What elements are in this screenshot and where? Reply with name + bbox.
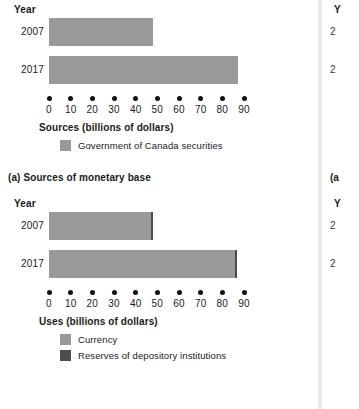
bar-segment-2007-a-0 [49, 18, 153, 46]
bar-2017-a [49, 56, 238, 84]
x-axis-tick-dot-b-80 [220, 290, 225, 295]
legend-label-b-1: Reserves of depository institutions [78, 350, 226, 361]
bar-row-2017-a: 2017 [0, 56, 300, 84]
next-column-caption-a: (a [330, 172, 339, 183]
x-axis-tick-label-a-80: 80 [212, 104, 232, 115]
x-axis-tick-dot-b-70 [198, 290, 203, 295]
x-axis-tick-label-b-90: 90 [234, 298, 254, 309]
x-axis-tick-label-a-10: 10 [61, 104, 81, 115]
next-column-row-label-a-1: 2 [330, 64, 336, 75]
legend-item-b-0: Currency [60, 332, 226, 347]
legend-a: Government of Canada securities [60, 138, 223, 154]
bar-segment-2017-a-0 [49, 56, 238, 84]
chart-plot-area-b: 2007 2017 [0, 212, 300, 290]
bar-track-2007-b [49, 212, 244, 240]
next-column-row-label-a-0: 2 [330, 26, 336, 37]
x-axis-tick-dot-b-0 [47, 290, 52, 295]
bar-row-2007-a: 2007 [0, 18, 300, 46]
x-axis-tick-label-a-20: 20 [82, 104, 102, 115]
bar-segment-2007-b-1 [151, 212, 153, 240]
x-axis-tick-label-a-0: 0 [39, 104, 59, 115]
legend-item-a-0: Government of Canada securities [60, 138, 223, 153]
x-axis-tick-label-a-30: 30 [104, 104, 124, 115]
panel-caption-a: (a) Sources of monetary base [8, 172, 151, 183]
x-axis-tick-dot-b-10 [68, 290, 73, 295]
bar-track-2007-a [49, 18, 244, 46]
x-axis-tick-label-a-50: 50 [147, 104, 167, 115]
x-axis-tick-dot-a-10 [68, 96, 73, 101]
bar-row-label-2007-b: 2007 [10, 220, 44, 231]
x-axis-tick-dot-a-50 [155, 96, 160, 101]
figure-page: Year 2007 2017 0102030405060708090 Sourc… [0, 0, 359, 409]
legend-b: CurrencyReserves of depository instituti… [60, 332, 226, 364]
x-axis-tick-label-b-10: 10 [61, 298, 81, 309]
x-axis-tick-label-b-0: 0 [39, 298, 59, 309]
x-axis-tick-dot-a-90 [242, 96, 247, 101]
x-axis-tick-label-b-50: 50 [147, 298, 167, 309]
bar-2007-a [49, 18, 153, 46]
legend-swatch-a-0 [60, 140, 71, 151]
x-axis-title-b: Uses (billions of dollars) [39, 316, 158, 327]
next-column-clipped: Y 2 2 (a Y 2 2 (b Fi [322, 0, 359, 409]
chart-plot-area-a: 2007 2017 [0, 18, 300, 96]
bar-track-2017-a [49, 56, 244, 84]
x-axis-tick-dot-a-0 [47, 96, 52, 101]
next-column-row-label-b-1: 2 [330, 258, 336, 269]
x-axis-tick-dot-b-20 [90, 290, 95, 295]
legend-item-b-1: Reserves of depository institutions [60, 348, 226, 363]
bar-segment-2017-b-0 [49, 250, 235, 278]
x-axis-tick-label-b-30: 30 [104, 298, 124, 309]
legend-swatch-b-0 [60, 334, 71, 345]
x-axis-tick-label-b-60: 60 [169, 298, 189, 309]
x-axis-tick-label-a-90: 90 [234, 104, 254, 115]
x-axis-tick-dot-a-70 [198, 96, 203, 101]
bar-2017-b [49, 250, 237, 278]
x-axis-tick-label-b-40: 40 [126, 298, 146, 309]
x-axis-tick-dot-a-40 [133, 96, 138, 101]
main-column: Year 2007 2017 0102030405060708090 Sourc… [0, 0, 318, 409]
bar-row-label-2007-a: 2007 [10, 26, 44, 37]
x-axis-tick-dot-a-60 [177, 96, 182, 101]
next-column-year-header-b: Y [334, 198, 341, 209]
next-column-row-label-b-0: 2 [330, 220, 336, 231]
year-axis-header-b: Year [14, 198, 36, 209]
bar-2007-b [49, 212, 153, 240]
bar-track-2017-b [49, 250, 244, 278]
next-column-year-header-a: Y [334, 4, 341, 15]
x-axis-tick-dot-a-30 [112, 96, 117, 101]
bar-segment-2007-b-0 [49, 212, 151, 240]
x-axis-title-a: Sources (billions of dollars) [39, 122, 174, 133]
bar-segment-2017-b-1 [235, 250, 237, 278]
x-axis-tick-label-a-70: 70 [191, 104, 211, 115]
x-axis-tick-dot-a-20 [90, 96, 95, 101]
bar-row-label-2017-a: 2017 [10, 64, 44, 75]
x-axis-tick-dot-b-90 [242, 290, 247, 295]
x-axis-tick-label-a-60: 60 [169, 104, 189, 115]
x-axis-tick-dot-a-80 [220, 96, 225, 101]
bar-row-2017-b: 2017 [0, 250, 300, 278]
legend-label-b-0: Currency [78, 334, 117, 345]
legend-swatch-b-1 [60, 350, 71, 361]
x-axis-tick-label-b-80: 80 [212, 298, 232, 309]
year-axis-header-a: Year [14, 4, 36, 15]
x-axis-tick-dot-b-30 [112, 290, 117, 295]
x-axis-tick-label-b-70: 70 [191, 298, 211, 309]
bar-row-2007-b: 2007 [0, 212, 300, 240]
x-axis-tick-dot-b-40 [133, 290, 138, 295]
legend-label-a-0: Government of Canada securities [78, 140, 223, 151]
x-axis-tick-label-a-40: 40 [126, 104, 146, 115]
x-axis-tick-label-b-20: 20 [82, 298, 102, 309]
x-axis-tick-dot-b-50 [155, 290, 160, 295]
bar-row-label-2017-b: 2017 [10, 258, 44, 269]
x-axis-tick-dot-b-60 [177, 290, 182, 295]
